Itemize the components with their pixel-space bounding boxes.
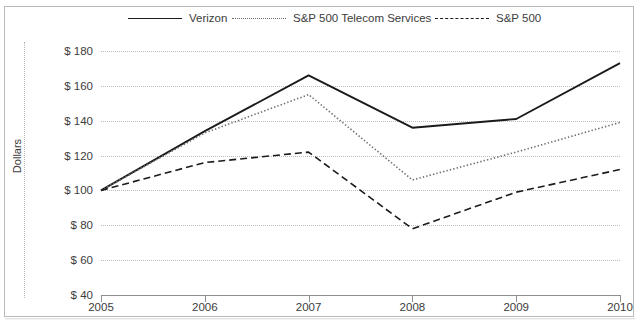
series-line bbox=[101, 152, 620, 229]
series-line bbox=[101, 63, 620, 190]
plot-area bbox=[0, 0, 640, 329]
series-line bbox=[101, 95, 620, 191]
